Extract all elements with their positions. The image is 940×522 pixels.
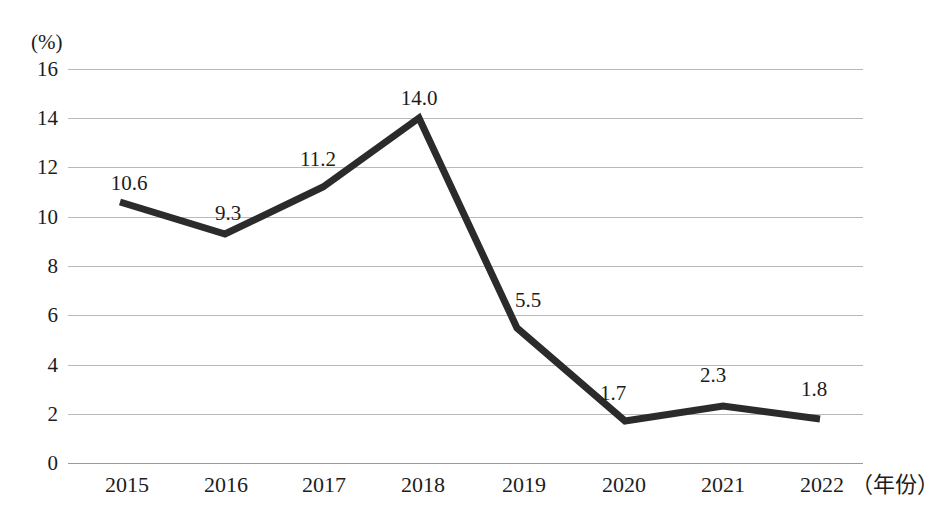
line-chart: (%) 16 14 12 10 8 6 4 2 0 2015 2016 2017…	[0, 0, 940, 522]
x-tick-2019: 2019	[502, 472, 546, 497]
data-label-2022: 1.8	[801, 377, 827, 401]
data-label-2019: 5.5	[515, 288, 541, 312]
data-label-2015: 10.6	[111, 171, 148, 195]
y-tick-16: 16	[37, 57, 58, 81]
y-axis-unit-label: (%)	[31, 30, 62, 54]
data-label-2016: 9.3	[215, 201, 241, 225]
y-tick-14: 14	[37, 106, 59, 130]
x-tick-2022: 2022	[800, 472, 844, 497]
x-tick-2015: 2015	[105, 472, 149, 497]
data-label-2018: 14.0	[401, 86, 438, 110]
x-tick-2016: 2016	[204, 472, 248, 497]
x-tick-2018: 2018	[401, 472, 445, 497]
y-tick-10: 10	[37, 205, 58, 229]
data-label-2020: 1.7	[600, 381, 626, 405]
x-tick-2017: 2017	[302, 472, 346, 497]
y-tick-0: 0	[48, 451, 59, 475]
data-label-2021: 2.3	[700, 363, 726, 387]
x-tick-2021: 2021	[701, 472, 745, 497]
chart-background	[0, 0, 940, 522]
y-tick-4: 4	[48, 353, 59, 377]
y-tick-8: 8	[48, 254, 59, 278]
y-tick-6: 6	[48, 303, 59, 327]
chart-canvas: (%) 16 14 12 10 8 6 4 2 0 2015 2016 2017…	[0, 0, 940, 522]
x-tick-labels: 2015 2016 2017 2018 2019 2020 2021 2022 …	[105, 472, 939, 497]
data-label-2017: 11.2	[300, 147, 336, 171]
y-tick-2: 2	[48, 402, 59, 426]
y-tick-12: 12	[37, 155, 58, 179]
x-axis-unit-label: （年份）	[851, 472, 939, 497]
x-tick-2020: 2020	[602, 472, 646, 497]
